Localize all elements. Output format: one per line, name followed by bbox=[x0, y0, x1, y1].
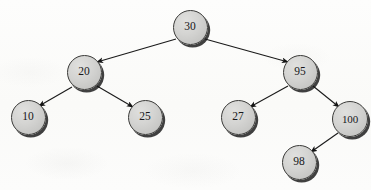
tree-node-label: 27 bbox=[232, 111, 244, 123]
tree-node-label: 20 bbox=[78, 66, 90, 78]
tree-edge-n20-to-n25 bbox=[97, 86, 133, 107]
tree-edge-n30-to-n95 bbox=[205, 39, 288, 62]
tree-edge-n20-to-n10 bbox=[39, 87, 72, 106]
tree-node-95[interactable]: 95 bbox=[283, 55, 318, 90]
tree-node-10[interactable]: 10 bbox=[11, 100, 46, 135]
tree-node-20[interactable]: 20 bbox=[67, 55, 102, 90]
binary-tree-figure: 30209510252710098 bbox=[0, 0, 371, 190]
tree-node-label: 10 bbox=[22, 111, 34, 123]
tree-edge-n30-to-n20 bbox=[97, 39, 176, 62]
tree-node-25[interactable]: 25 bbox=[128, 100, 163, 135]
tree-node-27[interactable]: 27 bbox=[221, 100, 256, 135]
tree-edge-n95-to-n100 bbox=[313, 86, 339, 107]
tree-edge-n100-to-n98 bbox=[311, 133, 338, 152]
tree-node-label: 25 bbox=[139, 111, 151, 123]
tree-node-100[interactable]: 100 bbox=[332, 101, 368, 137]
tree-node-label: 30 bbox=[184, 21, 196, 33]
tree-node-98[interactable]: 98 bbox=[282, 145, 317, 180]
tree-edge-n95-to-n27 bbox=[250, 86, 288, 107]
tree-node-30[interactable]: 30 bbox=[173, 10, 208, 45]
tree-node-label: 100 bbox=[342, 114, 358, 125]
tree-node-label: 98 bbox=[293, 156, 305, 168]
tree-node-label: 95 bbox=[294, 66, 306, 78]
